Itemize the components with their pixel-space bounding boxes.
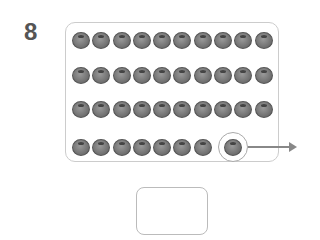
blueberry-icon <box>153 139 171 156</box>
blueberry-icon <box>92 139 110 156</box>
circled-berry <box>218 132 248 162</box>
blueberry-icon <box>133 32 151 49</box>
berry-row-2 <box>72 67 273 84</box>
blueberry-icon <box>173 32 191 49</box>
blueberry-icon <box>153 67 171 84</box>
blueberry-icon <box>113 139 131 156</box>
blueberry-icon <box>133 67 151 84</box>
blueberry-icon <box>113 32 131 49</box>
blueberry-icon <box>194 139 212 156</box>
blueberry-icon <box>173 101 191 118</box>
berry-row-4 <box>72 139 212 156</box>
arrow-right-icon <box>289 142 297 152</box>
blueberry-icon <box>173 67 191 84</box>
blueberry-icon <box>72 101 90 118</box>
berry-row-3 <box>72 101 273 118</box>
answer-box[interactable] <box>136 187 208 235</box>
blueberry-icon <box>92 101 110 118</box>
blueberry-icon <box>255 32 273 49</box>
blueberry-icon <box>72 139 90 156</box>
blueberry-icon <box>153 101 171 118</box>
blueberry-icon <box>113 101 131 118</box>
blueberry-icon <box>214 67 232 84</box>
blueberry-icon <box>194 101 212 118</box>
blueberry-icon <box>72 32 90 49</box>
blueberry-icon <box>224 139 242 156</box>
blueberry-icon <box>214 101 232 118</box>
blueberry-icon <box>133 139 151 156</box>
blueberry-icon <box>255 101 273 118</box>
blueberry-icon <box>92 32 110 49</box>
blueberry-icon <box>234 67 252 84</box>
blueberry-icon <box>92 67 110 84</box>
problem-number: 8 <box>24 18 37 46</box>
blueberry-icon <box>72 67 90 84</box>
blueberry-icon <box>173 139 191 156</box>
berry-row-1 <box>72 32 273 49</box>
blueberry-icon <box>133 101 151 118</box>
blueberry-icon <box>214 32 232 49</box>
blueberry-icon <box>194 67 212 84</box>
blueberry-icon <box>234 101 252 118</box>
blueberry-icon <box>153 32 171 49</box>
blueberry-icon <box>255 67 273 84</box>
arrow-line <box>248 146 290 148</box>
blueberry-icon <box>234 32 252 49</box>
blueberry-icon <box>113 67 131 84</box>
blueberry-icon <box>194 32 212 49</box>
